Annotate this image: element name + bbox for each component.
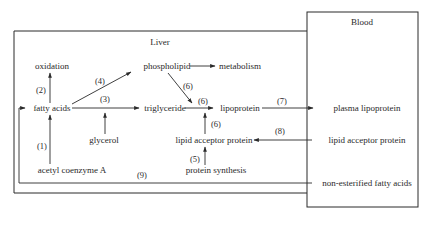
step-label-2: (2) (36, 85, 46, 95)
node-protein-synthesis: protein synthesis (186, 165, 247, 175)
node-plasma-lipoprotein: plasma lipoprotein (333, 103, 401, 113)
node-phospholipid: phospholipid (143, 61, 191, 71)
step-label-9: (9) (137, 170, 147, 180)
step-label-6a: (6) (183, 81, 193, 91)
node-metabolism: metabolism (219, 61, 261, 71)
node-lipid-acceptor-protein-blood: lipid acceptor protein (329, 135, 406, 145)
step-label-5: (5) (190, 154, 200, 164)
blood-label: Blood (351, 17, 374, 27)
node-glycerol: glycerol (89, 135, 119, 145)
step-label-8: (8) (275, 126, 285, 136)
node-non-esterified-fatty-acids: non-esterified fatty acids (322, 178, 412, 188)
step-label-1: (1) (37, 141, 47, 151)
step-label-3: (3) (100, 94, 110, 104)
step-label-6c: (6) (211, 119, 221, 129)
node-lipoprotein: lipoprotein (220, 103, 260, 113)
node-fatty-acids: fatty acids (33, 103, 71, 113)
step-label-7: (7) (277, 96, 287, 106)
node-lipid-acceptor-protein-liver: lipid acceptor protein (176, 135, 253, 145)
node-acetyl-coenzyme-a: acetyl coenzyme A (38, 165, 107, 175)
node-oxidation: oxidation (35, 61, 69, 71)
step-label-4: (4) (95, 76, 105, 86)
liver-label: Liver (150, 37, 170, 47)
step-label-6b: (6) (198, 96, 208, 106)
node-triglyceride: triglyceride (144, 103, 185, 113)
lipid-metabolism-diagram: Liver Blood oxidation fatty acids phosph… (0, 0, 435, 225)
